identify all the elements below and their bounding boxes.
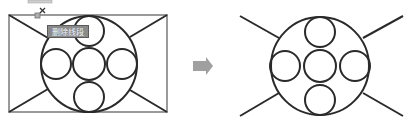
center-circle bbox=[304, 50, 336, 82]
diagonal-line-tr[interactable] bbox=[130, 15, 167, 37]
center-circle[interactable] bbox=[73, 48, 105, 80]
diagonal-line-tl bbox=[240, 16, 279, 38]
outer-circle bbox=[271, 17, 369, 115]
right-circle[interactable] bbox=[107, 49, 137, 79]
grip-handle[interactable] bbox=[35, 13, 40, 18]
bottom-circle[interactable] bbox=[74, 82, 104, 112]
diagonal-line-bl bbox=[240, 93, 279, 116]
right-circle bbox=[340, 51, 370, 81]
bottom-circle bbox=[305, 85, 335, 115]
diagonal-line-br[interactable] bbox=[130, 90, 167, 112]
diagonal-line-tr bbox=[363, 16, 403, 38]
diagonal-line-tl[interactable] bbox=[9, 15, 48, 38]
left-circle[interactable] bbox=[41, 49, 71, 79]
diagonal-line-br bbox=[363, 93, 403, 116]
command-tooltip: 删除线段 bbox=[47, 25, 89, 38]
before-drawing bbox=[9, 8, 167, 112]
top-circle bbox=[305, 17, 335, 47]
left-circle bbox=[270, 51, 300, 81]
trim-diagram bbox=[0, 0, 406, 126]
right-arrow-icon bbox=[193, 57, 213, 75]
toolbar-remnant bbox=[28, 0, 52, 3]
cursor-x-icon bbox=[40, 8, 45, 13]
diagonal-line-bl[interactable] bbox=[9, 89, 48, 112]
after-drawing bbox=[240, 16, 403, 116]
